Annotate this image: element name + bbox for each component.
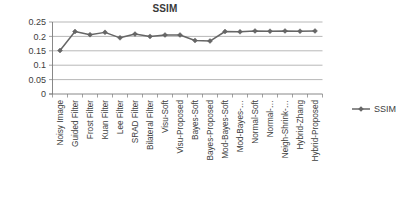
- y-tick-label: 0.15: [28, 46, 46, 56]
- chart-legend: SSIM: [352, 104, 396, 114]
- y-axis-tick-marks: [49, 22, 53, 94]
- y-axis-tick-labels: 00.050.10.150.20.25: [28, 17, 46, 99]
- data-point-marker: [313, 28, 318, 33]
- x-tick-label: Mod-Bayes-Soft: [221, 99, 230, 158]
- data-point-marker: [268, 29, 273, 34]
- chart-plot-area: 00.050.10.150.20.25 Noisy ImageGuided Fi…: [0, 0, 417, 199]
- x-tick-label: Neigh-Shrink-…: [281, 100, 290, 158]
- legend-label-ssim: SSIM: [374, 104, 396, 114]
- y-tick-label: 0: [41, 89, 46, 99]
- y-tick-label: 0.2: [33, 32, 46, 42]
- legend-marker-swatch: [358, 106, 364, 112]
- data-point-marker: [148, 34, 153, 39]
- x-tick-label: Visu-Proposed: [176, 100, 185, 154]
- x-tick-label: Frost Filter: [86, 100, 95, 139]
- x-tick-label: Hybrid-Proposed: [311, 100, 320, 162]
- x-tick-label: SRAD Filter: [131, 100, 140, 143]
- data-point-marker: [133, 32, 138, 37]
- x-tick-label: Lee Filter: [116, 100, 125, 134]
- x-tick-label: Bayes-Soft: [191, 99, 200, 140]
- chart-container: SSIM 00.050.10.150.20.25 Noisy ImageGuid…: [0, 0, 417, 199]
- x-tick-label: Noisy Image: [56, 100, 65, 146]
- data-point-marker: [253, 28, 258, 33]
- x-tick-label: Normal-…: [266, 100, 275, 137]
- x-tick-label: Visu-Soft: [161, 99, 170, 133]
- y-tick-label: 0.05: [28, 75, 46, 85]
- data-point-marker: [238, 29, 243, 34]
- x-tick-label: Guided Filter: [71, 100, 80, 147]
- y-tick-label: 0.1: [33, 60, 46, 70]
- data-point-marker: [283, 28, 288, 33]
- y-tick-label: 0.25: [28, 17, 46, 27]
- data-point-marker: [298, 29, 303, 34]
- data-point-marker: [193, 38, 198, 43]
- x-tick-label: Mod-Bayes-…: [236, 100, 245, 152]
- data-series-ssim: [58, 28, 318, 53]
- x-tick-label: Normal-Soft: [251, 99, 260, 143]
- x-tick-label: Hybrid-Zhang: [296, 100, 305, 150]
- series-line: [60, 31, 315, 51]
- data-point-marker: [103, 30, 108, 35]
- x-tick-label: Kuan Filter: [101, 100, 110, 140]
- x-tick-label: Bayes-Proposed: [206, 100, 215, 161]
- x-tick-label: Bilateral Filter: [146, 100, 155, 150]
- x-axis-tick-labels: Noisy ImageGuided FilterFrost FilterKuan…: [56, 99, 320, 161]
